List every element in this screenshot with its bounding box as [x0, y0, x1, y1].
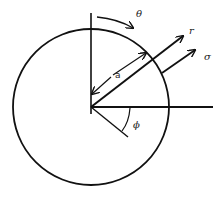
r-label: r: [189, 25, 195, 36]
phi-arc: [122, 108, 130, 131]
diagram-canvas: θ r σ a ϕ: [0, 0, 222, 197]
sigma-arrow: [162, 50, 195, 73]
radius-a-label: a: [115, 70, 121, 80]
theta-arrow: [97, 17, 133, 28]
theta-label: θ: [136, 8, 142, 19]
phi-line: [91, 107, 128, 137]
phi-label: ϕ: [133, 119, 140, 130]
sigma-label: σ: [204, 51, 212, 62]
r-arrow: [91, 36, 183, 107]
radius-a-arrow-back: [92, 77, 111, 94]
